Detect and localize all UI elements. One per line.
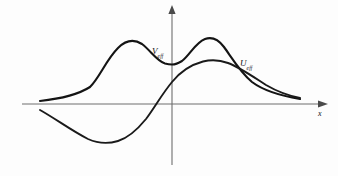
curve-label-v: Veff xyxy=(152,41,164,60)
curve-u-eff xyxy=(40,60,300,143)
x-axis-label: x xyxy=(318,110,322,118)
curve-label-u-subscript: eff xyxy=(247,65,253,71)
figure-canvas: Veff Ueff x xyxy=(0,0,338,176)
y-axis-arrowhead xyxy=(168,5,175,14)
curve-label-u: Ueff xyxy=(240,53,253,72)
figure-drawing xyxy=(0,0,338,176)
x-axis-group xyxy=(22,100,328,107)
x-axis-arrowhead xyxy=(318,100,328,107)
curve-label-v-subscript: eff xyxy=(158,53,164,59)
curve-v-eff xyxy=(40,38,300,101)
